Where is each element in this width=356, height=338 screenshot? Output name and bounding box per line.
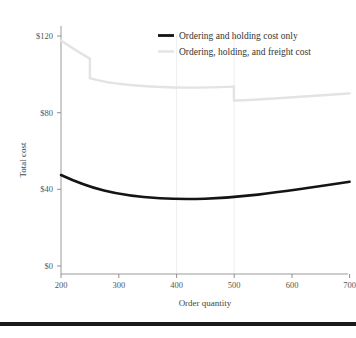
x-axis-title: Order quantity bbox=[179, 298, 232, 308]
legend-entry-ordering-holding-freight: Ordering, holding, and freight cost bbox=[158, 47, 311, 57]
x-tick-label-400: 400 bbox=[170, 280, 183, 290]
freight-segment-250-500 bbox=[90, 78, 234, 88]
x-axis-ticks bbox=[61, 274, 350, 278]
legend-entry-ordering-holding: Ordering and holding cost only bbox=[158, 31, 298, 41]
gridlines bbox=[177, 36, 235, 274]
x-tick-label-200: 200 bbox=[55, 280, 68, 290]
y-axis-ticks bbox=[57, 36, 61, 266]
line-chart-canvas: $120 $80 $40 $0 200 300 400 500 600 700 … bbox=[0, 0, 356, 338]
x-axis-tick-labels: 200 300 400 500 600 700 bbox=[55, 280, 356, 290]
y-tick-label-120: $120 bbox=[36, 31, 53, 41]
series-ordering-holding-only bbox=[61, 175, 350, 199]
y-tick-label-0: $0 bbox=[45, 261, 54, 271]
y-tick-label-40: $40 bbox=[40, 184, 53, 194]
y-axis-tick-labels: $120 $80 $40 $0 bbox=[36, 31, 53, 271]
legend-label-ordering-holding: Ordering and holding cost only bbox=[179, 31, 298, 41]
axis-spines bbox=[61, 26, 348, 274]
chart-figure: $120 $80 $40 $0 200 300 400 500 600 700 … bbox=[0, 0, 356, 338]
y-axis-title: Total cost bbox=[18, 142, 28, 178]
y-tick-label-80: $80 bbox=[40, 108, 53, 118]
freight-segment-500-700 bbox=[234, 93, 349, 100]
eoq-cost-curve bbox=[61, 175, 350, 199]
bottom-divider-rule bbox=[0, 322, 356, 326]
freight-segment-200-250 bbox=[61, 41, 90, 59]
x-tick-label-300: 300 bbox=[112, 280, 125, 290]
legend-label-ordering-holding-freight: Ordering, holding, and freight cost bbox=[179, 47, 311, 57]
x-tick-label-700: 700 bbox=[343, 280, 356, 290]
x-tick-label-500: 500 bbox=[228, 280, 241, 290]
x-tick-label-600: 600 bbox=[286, 280, 299, 290]
